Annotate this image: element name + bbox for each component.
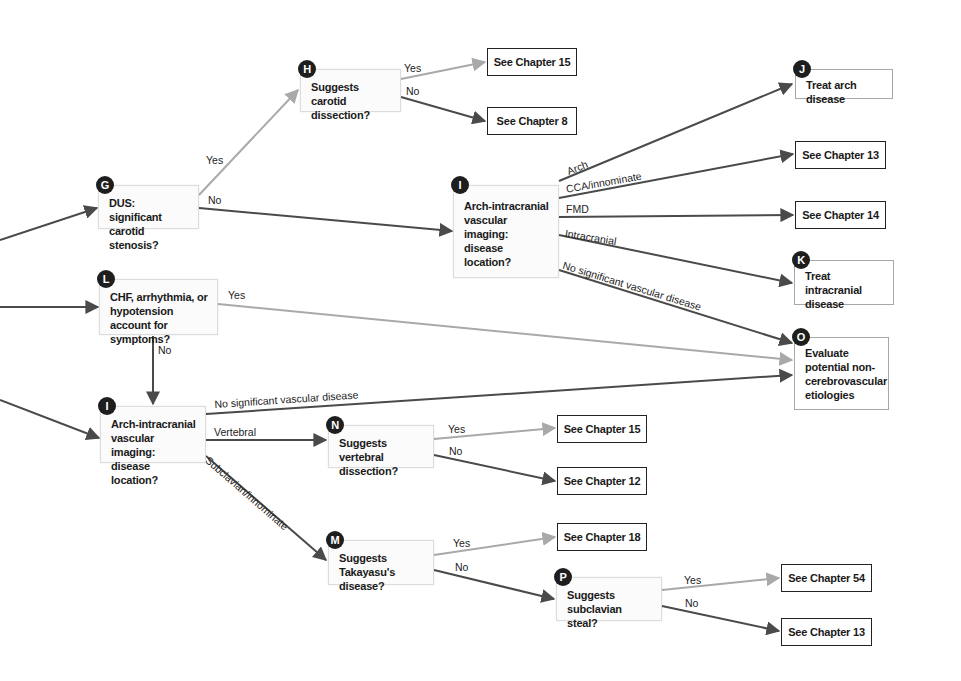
edge-i1-to-o xyxy=(559,270,792,343)
edge-label: No xyxy=(449,445,462,457)
node-text: See Chapter 15 xyxy=(564,422,641,436)
node-badge-j: J xyxy=(793,60,811,78)
edge-label: No xyxy=(455,561,468,573)
node-text: See Chapter 15 xyxy=(494,55,571,69)
edge-p-to-c13b xyxy=(662,606,779,631)
edge-i1-to-j xyxy=(559,84,792,181)
node-i1: IArch-intracranial vascular imaging: dis… xyxy=(453,185,559,278)
node-text: See Chapter 18 xyxy=(564,530,641,544)
node-n: NSuggests vertebral dissection? xyxy=(328,425,434,468)
node-j: JTreat arch disease xyxy=(795,69,893,99)
node-c18: See Chapter 18 xyxy=(557,523,647,551)
edge-label: Yes xyxy=(453,537,470,549)
edge-entry-to-g xyxy=(0,208,97,240)
node-c15b: See Chapter 15 xyxy=(557,415,647,443)
node-m: MSuggests Takayasu's disease? xyxy=(328,540,434,585)
node-text: Treat intracranial disease xyxy=(805,270,862,310)
flowchart-canvas: YesNoYesNoArchCCA/innominateFMDIntracran… xyxy=(0,0,961,681)
node-c15a: See Chapter 15 xyxy=(487,48,577,76)
node-c13b: See Chapter 13 xyxy=(781,618,872,646)
node-badge-p: P xyxy=(554,568,572,586)
node-text: See Chapter 8 xyxy=(497,114,568,128)
node-text: See Chapter 14 xyxy=(802,208,879,222)
edge-label: No xyxy=(685,597,698,609)
node-h: HSuggests carotid dissection? xyxy=(300,69,401,112)
node-text: DUS: significant carotid stenosis? xyxy=(109,197,162,251)
node-c14: See Chapter 14 xyxy=(795,201,886,229)
node-l: LCHF, arrhythmia, or hypotension account… xyxy=(99,279,218,335)
edge-m-to-p xyxy=(434,570,554,599)
node-badge-i: I xyxy=(98,397,116,415)
node-text: See Chapter 54 xyxy=(788,571,865,585)
node-text: Suggests carotid dissection? xyxy=(311,81,370,121)
edge-i1-to-c13a xyxy=(559,154,793,198)
node-badge-m: M xyxy=(326,531,344,549)
node-c12: See Chapter 12 xyxy=(557,467,647,495)
node-text: Arch-intracranial vascular imaging: dise… xyxy=(464,199,550,269)
node-i2: IArch-intracranial vascular imaging: dis… xyxy=(100,406,206,463)
node-text: Suggests vertebral dissection? xyxy=(339,437,398,477)
node-text: Evaluate potential non-cerebrovascular e… xyxy=(805,347,887,401)
edge-label: Vertebral xyxy=(214,426,256,438)
edge-g-to-i1 xyxy=(199,208,452,231)
edge-h-to-c8 xyxy=(401,97,485,121)
edge-label: Yes xyxy=(684,574,701,586)
node-o: OEvaluate potential non-cerebrovascular … xyxy=(794,337,889,410)
node-p: PSuggests subclavian steal? xyxy=(556,577,662,621)
node-g: GDUS: significant carotid stenosis? xyxy=(98,185,199,229)
edge-p-to-c54 xyxy=(662,578,779,590)
edge-entry-to-i2 xyxy=(0,400,99,438)
edge-label: Yes xyxy=(206,154,223,166)
edge-label: Yes xyxy=(404,62,421,74)
node-badge-i: I xyxy=(451,176,469,194)
node-text: See Chapter 13 xyxy=(802,148,879,162)
node-text: See Chapter 12 xyxy=(564,474,641,488)
edge-label: Yes xyxy=(228,289,245,301)
edge-label: Yes xyxy=(448,423,465,435)
edge-l-to-o xyxy=(218,304,792,360)
node-badge-g: G xyxy=(96,176,114,194)
node-text: See Chapter 13 xyxy=(788,625,865,639)
node-c13a: See Chapter 13 xyxy=(795,141,886,169)
edge-label: No xyxy=(208,194,221,206)
node-c8: See Chapter 8 xyxy=(487,107,577,135)
edge-label: No xyxy=(406,85,419,97)
node-badge-n: N xyxy=(326,416,344,434)
edge-g-to-h xyxy=(199,90,298,195)
node-badge-o: O xyxy=(792,328,810,346)
node-badge-l: L xyxy=(97,270,115,288)
node-k: KTreat intracranial disease xyxy=(794,260,894,305)
node-c54: See Chapter 54 xyxy=(781,564,872,592)
node-badge-k: K xyxy=(792,251,810,269)
edge-i1-to-c14 xyxy=(559,215,793,217)
node-badge-h: H xyxy=(298,60,316,78)
edge-n-to-c12 xyxy=(434,455,555,481)
edge-label: FMD xyxy=(566,203,589,215)
